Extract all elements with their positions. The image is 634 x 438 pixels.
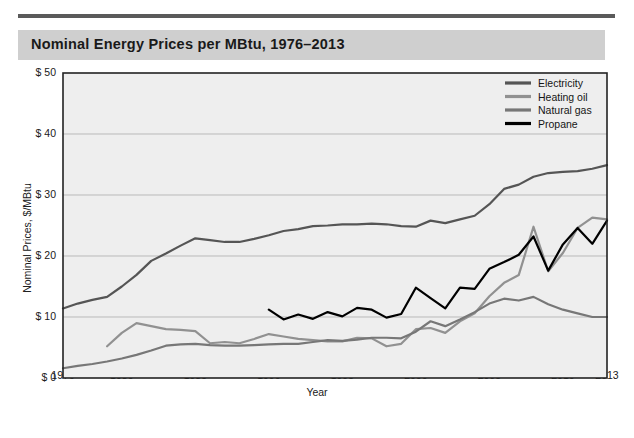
chart-page: Nominal Energy Prices per MBtu, 1976–201…	[0, 0, 634, 438]
legend-label-propane: Propane	[538, 118, 578, 130]
legend-label-electricity: Electricity	[538, 77, 584, 89]
page-title: Nominal Energy Prices per MBtu, 1976–201…	[31, 36, 345, 52]
top-divider-rule	[18, 14, 615, 18]
legend-label-natural-gas: Natural gas	[538, 104, 592, 116]
line-chart-svg: ElectricityHeating oilNatural gasPropane	[0, 64, 634, 404]
chart-area: Nominal Prices, $/MBtu Year $ 0$ 10$ 20$…	[0, 64, 634, 404]
legend-label-heating-oil: Heating oil	[538, 91, 588, 103]
